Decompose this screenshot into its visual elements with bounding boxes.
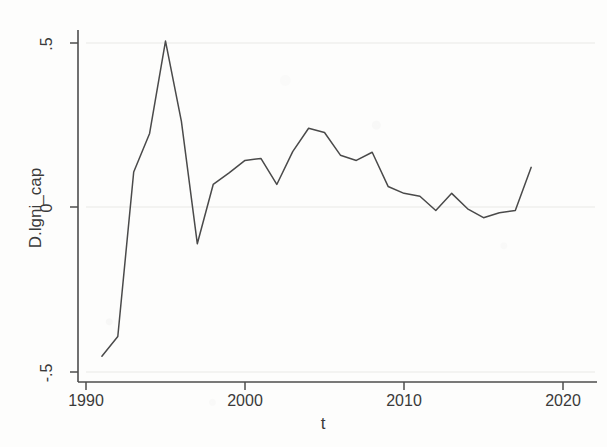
chart-screenshot: .5 0 -.5 D.lgni_cap 1990 2000 2010 2020 … — [0, 0, 607, 447]
y-tick-label-neg0.5: -.5 — [38, 354, 56, 392]
x-axis-title: t — [313, 414, 333, 434]
y-axis-title: D.lgni_cap — [26, 148, 46, 268]
x-tick-label-1990: 1990 — [61, 392, 111, 410]
x-tick-label-2000: 2000 — [220, 392, 270, 410]
x-tick-label-2020: 2020 — [538, 392, 588, 410]
x-axis-ticks — [86, 382, 563, 390]
y-tick-label-0.5: .5 — [38, 29, 56, 59]
gridlines — [86, 43, 595, 372]
axes-lines — [78, 30, 597, 382]
data-series-line — [102, 41, 531, 356]
chart-canvas — [0, 0, 607, 447]
x-tick-label-2010: 2010 — [379, 392, 429, 410]
y-axis-ticks — [70, 43, 78, 372]
